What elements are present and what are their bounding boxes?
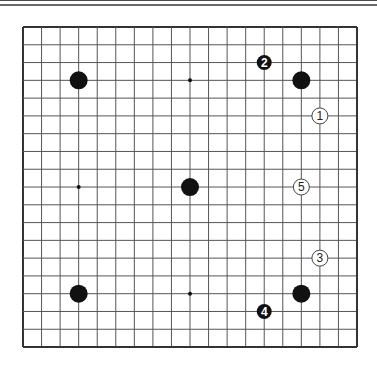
move-number-label: 4	[261, 305, 268, 319]
stone-body	[292, 71, 310, 89]
move-number-label: 1	[317, 109, 324, 123]
move-number-label: 3	[317, 251, 324, 265]
white-stone-move-5[interactable]: 5	[293, 179, 309, 195]
white-stone-move-3[interactable]: 3	[312, 250, 328, 266]
star-point-dot	[188, 292, 192, 296]
black-stone-move-2[interactable]: 2	[257, 55, 272, 70]
black-stone[interactable]	[70, 285, 88, 303]
black-stone[interactable]	[70, 71, 88, 89]
stone-body	[70, 71, 88, 89]
white-stone-move-1[interactable]: 1	[312, 108, 328, 124]
stone-body	[181, 178, 199, 196]
black-stone[interactable]	[181, 178, 199, 196]
black-stone[interactable]	[292, 71, 310, 89]
move-number-label: 5	[298, 180, 305, 194]
black-stone-move-4[interactable]: 4	[257, 304, 272, 319]
star-point-dot	[188, 78, 192, 82]
black-stone[interactable]	[292, 285, 310, 303]
star-point-dot	[77, 185, 81, 189]
stone-body	[292, 285, 310, 303]
stone-body	[70, 285, 88, 303]
move-number-label: 2	[261, 56, 268, 70]
go-board[interactable]: 12345	[0, 0, 377, 369]
